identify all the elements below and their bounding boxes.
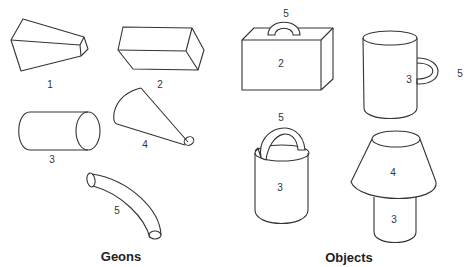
geon-label-1: 1 — [47, 79, 53, 90]
geon-cone — [114, 88, 196, 147]
object-mug — [363, 31, 438, 119]
object-bucket — [255, 128, 309, 223]
mug-body-label: 3 — [406, 74, 412, 85]
objects-caption: Objects — [325, 250, 373, 265]
lamp-base-label: 3 — [391, 214, 397, 225]
geons-objects-diagram: 1 2 3 4 5 5 2 3 5 5 3 4 3 Geons Objects — [0, 0, 471, 267]
geon-label-5: 5 — [114, 205, 120, 216]
geon-label-3: 3 — [49, 154, 55, 165]
geon-label-2: 2 — [157, 79, 163, 90]
briefcase-body-label: 2 — [278, 58, 284, 69]
geon-truncated-pyramid — [11, 19, 88, 71]
object-briefcase — [242, 22, 333, 90]
lamp-shade-label: 4 — [390, 167, 396, 178]
briefcase-handle-label: 5 — [283, 8, 289, 19]
mug-handle-label: 5 — [457, 68, 463, 79]
object-lamp — [351, 131, 436, 243]
geon-cylinder — [19, 112, 100, 150]
bucket-body-label: 3 — [277, 182, 283, 193]
geons-caption: Geons — [101, 249, 141, 264]
geon-rectangular-block — [118, 27, 204, 70]
geon-label-4: 4 — [142, 139, 148, 150]
bucket-handle-label: 5 — [278, 112, 284, 123]
diagram-drawing — [0, 0, 471, 267]
geon-curved-tube — [86, 172, 161, 239]
